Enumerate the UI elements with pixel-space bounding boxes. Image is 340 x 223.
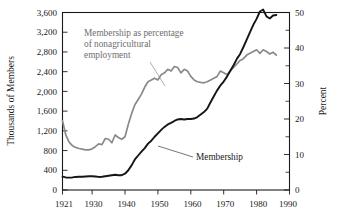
y-tick-label-2000: 2,000 (37, 87, 58, 97)
y2-tick-label-30: 30 (295, 79, 305, 89)
x-tick-label-1970: 1970 (216, 199, 235, 209)
percent-annotation-line-2: of nonagricultural (84, 39, 151, 49)
x-axis-ticks (63, 190, 290, 195)
y-tick-label-1600: 1,600 (37, 106, 58, 116)
chart-figure: 0 400 800 1,200 1,600 2,000 2,400 2,800 … (0, 0, 340, 223)
x-tick-label-1990: 1990 (279, 199, 298, 209)
y-tick-label-3600: 3,600 (37, 8, 58, 18)
right-axis-ticks (284, 13, 290, 191)
right-axis-tick-labels: 0 10 20 30 40 50 (295, 8, 305, 196)
chart-svg: 0 400 800 1,200 1,600 2,000 2,400 2,800 … (0, 0, 340, 223)
y-tick-label-3200: 3,200 (37, 27, 58, 37)
x-tick-label-1950: 1950 (150, 199, 169, 209)
x-tick-label-1980: 1980 (249, 199, 268, 209)
left-axis-title: Thousands of Members (6, 56, 16, 146)
y-tick-label-400: 400 (44, 165, 58, 175)
right-axis-title: Percent (318, 86, 328, 115)
y-tick-label-1200: 1,200 (37, 126, 58, 136)
y2-tick-label-40: 40 (295, 43, 305, 53)
left-axis-tick-labels: 0 400 800 1,200 1,600 2,000 2,400 2,800 … (37, 8, 58, 195)
membership-annotation-group: Membership (158, 146, 243, 162)
x-tick-label-1930: 1930 (85, 199, 104, 209)
percent-annotation-line-1: Membership as percentage (84, 28, 184, 38)
x-tick-label-1960: 1960 (183, 199, 202, 209)
left-axis-ticks (63, 13, 68, 191)
y2-tick-label-0: 0 (295, 185, 300, 195)
y2-tick-label-10: 10 (295, 150, 305, 160)
y-tick-label-0: 0 (53, 185, 58, 195)
y-tick-label-2800: 2,800 (37, 47, 58, 57)
y2-tick-label-50: 50 (295, 8, 305, 18)
y-tick-label-2400: 2,400 (37, 67, 58, 77)
membership-annotation-label: Membership (196, 152, 243, 162)
x-tick-label-1940: 1940 (118, 199, 137, 209)
y-tick-label-800: 800 (44, 146, 58, 156)
percent-annotation-line-3: employment (84, 50, 131, 60)
x-axis-tick-labels: 1921 1930 1940 1950 1960 1970 1980 1990 (55, 199, 298, 209)
x-tick-label-1921: 1921 (55, 199, 73, 209)
series-line-percent (63, 50, 277, 150)
membership-annotation-leader-line (158, 146, 193, 157)
percent-annotation-group: Membership as percentage of nonagricultu… (84, 28, 184, 86)
y2-tick-label-20: 20 (295, 114, 305, 124)
